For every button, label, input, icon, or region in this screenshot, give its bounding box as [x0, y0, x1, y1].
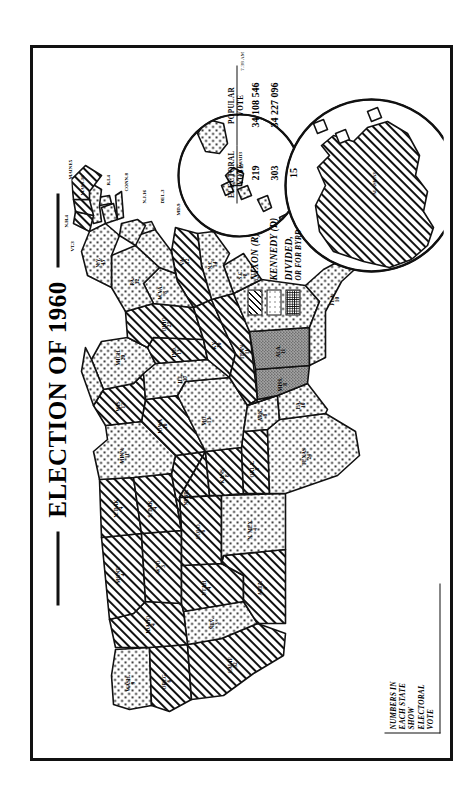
callout-mass: MASS.16: [80, 175, 85, 195]
state-label-ny: N.Y.45: [96, 258, 107, 268]
state-label-nebr: NEBR.6: [184, 490, 195, 506]
state-label-tenn: TENN.11: [240, 344, 251, 360]
legend-label-nixon: NIXON (R): [250, 201, 260, 280]
state-label-ohio: OHIO25: [162, 317, 173, 331]
state-label-ky: KY.10: [212, 341, 223, 350]
map-frame: ELECTION OF 1960: [30, 45, 453, 761]
state-label-idaho: IDAHO4: [146, 616, 157, 634]
state-label-iowa: IOWA10: [158, 419, 169, 434]
note-line-4: ELECTORAL: [416, 610, 425, 730]
state-label-nc: N.C.14: [208, 259, 219, 269]
state-label-la: LA.10: [296, 401, 307, 410]
legend-swatch-kennedy: [267, 290, 282, 316]
state-label-pa: PA.32: [130, 278, 141, 286]
legend-label-divided: DIVIDED, OR FOR BYRD: [284, 201, 301, 280]
title-rule-left: [56, 532, 59, 606]
state-label-wash: WASH.9: [126, 675, 137, 692]
state-label-ala: ALA.11: [276, 345, 287, 357]
legend-header-popular: POPULAR VOTE: [228, 66, 245, 146]
legend-header-row: ELECTORAL VOTE POPULAR VOTE: [220, 66, 246, 316]
map-page: ELECTION OF 1960: [0, 0, 475, 807]
rotated-map-stage: ELECTION OF 1960: [34, 48, 445, 752]
legend-swatch-nixon: [248, 290, 263, 316]
page-title: ELECTION OF 1960: [44, 281, 72, 517]
state-label-oreg: OREG.6: [162, 673, 173, 690]
callout-vt: VT.3: [70, 241, 75, 251]
legend-label-kennedy: KENNEDY (D): [269, 201, 279, 280]
legend-electoral-kennedy: 303: [269, 145, 280, 202]
callout-del: DEL.3: [160, 189, 165, 203]
state-label-wis: WIS.12: [116, 400, 127, 412]
legend-swatch-divided: [286, 290, 301, 316]
state-label-calif: CALIF.32: [228, 656, 239, 673]
state-label-ndak: N. DAK.4: [114, 498, 125, 518]
state-label-miss: MISS.8: [278, 377, 289, 391]
state-label-wyo: WYO.3: [156, 559, 167, 573]
legend-row-nixon: NIXON (R) 219 34 108 546: [246, 66, 265, 316]
map-legend: ELECTORAL VOTE POPULAR VOTE NIXON (R) 21…: [220, 66, 303, 316]
callout-nh: N.H.4: [64, 215, 69, 228]
legend-electoral-divided: 15: [288, 145, 299, 202]
electoral-vote-note: NUMBERS IN EACH STATE SHOW ELECTORAL VOT…: [388, 610, 434, 730]
note-rule-vertical: [385, 732, 441, 733]
state-label-minn: MINN.11: [120, 448, 131, 464]
state-label-kans: KANS.8: [220, 468, 231, 484]
note-line-1: NUMBERS IN: [388, 610, 397, 730]
note-rule-horizontal: [439, 584, 440, 734]
state-label-ill: ILL.27: [178, 373, 189, 383]
callout-conn: CONN.8: [124, 173, 129, 191]
state-label-colo: COLO.6: [196, 523, 207, 540]
callout-ri: R.I.4: [106, 175, 111, 186]
callout-maine: MAINE5: [68, 160, 73, 180]
state-label-nev: NEV.3: [210, 618, 221, 630]
legend-row-divided: DIVIDED, OR FOR BYRD 15: [284, 66, 303, 316]
state-label-mont: MONT.4: [116, 566, 127, 583]
note-line-3: SHOW: [407, 610, 416, 730]
state-label-okla: OKLA.8: [250, 461, 261, 478]
state-label-ark: ARK.8: [258, 409, 269, 422]
title-rule-right: [56, 193, 59, 267]
state-label-mo: MO.13: [202, 415, 213, 425]
map-credit: 7.38 AM: [240, 52, 245, 71]
state-label-mich: MICH.20: [116, 349, 127, 365]
state-label-nmex: N. MEX.4: [248, 519, 259, 539]
state-label-va: VA.12: [180, 257, 191, 265]
legend-electoral-nixon: 219: [250, 145, 261, 202]
state-label-wva: W.VA.8: [158, 285, 169, 299]
legend-popular-nixon: 34 108 546: [250, 66, 261, 145]
inset-label-alaska: ALASKA3: [372, 172, 377, 195]
note-line-2: EACH STATE: [398, 610, 407, 730]
callout-md: MD.9: [176, 203, 181, 215]
legend-popular-kennedy: 34 227 096: [269, 66, 280, 145]
note-line-5: VOTE: [425, 610, 434, 730]
state-label-utah: UTAH4: [202, 581, 213, 596]
legend-row-kennedy: KENNEDY (D) 303 34 227 096: [265, 66, 284, 316]
state-label-ind: IND.13: [172, 346, 183, 357]
legend-header-electoral: ELECTORAL VOTE: [228, 145, 245, 203]
state-label-fla: FLA.10: [330, 294, 341, 306]
state-label-texas: TEXAS24: [302, 448, 313, 466]
state-label-sdak: S. DAK.4: [148, 499, 159, 518]
callout-nj: N.J.16: [142, 190, 147, 204]
state-label-ariz: ARIZ.4: [258, 581, 269, 596]
